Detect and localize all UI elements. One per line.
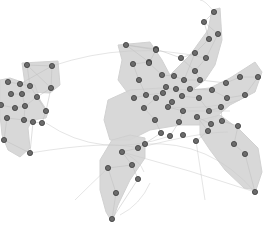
graph-node[interactable]: [21, 117, 26, 122]
graph-node[interactable]: [180, 132, 185, 137]
graph-node[interactable]: [136, 77, 141, 82]
graph-node[interactable]: [211, 9, 216, 14]
graph-node[interactable]: [27, 83, 32, 88]
graph-node[interactable]: [218, 104, 223, 109]
graph-node[interactable]: [8, 91, 13, 96]
graph-node[interactable]: [203, 55, 208, 60]
graph-node[interactable]: [209, 87, 214, 92]
graph-node[interactable]: [180, 108, 185, 113]
graph-node[interactable]: [201, 19, 206, 24]
graph-node[interactable]: [242, 151, 247, 156]
graph-node[interactable]: [113, 190, 118, 195]
graph-node[interactable]: [119, 149, 124, 154]
graph-node[interactable]: [152, 117, 157, 122]
graph-node[interactable]: [208, 121, 213, 126]
graph-node[interactable]: [49, 63, 54, 68]
graph-node[interactable]: [160, 90, 165, 95]
graph-node[interactable]: [17, 81, 22, 86]
graph-node[interactable]: [223, 80, 228, 85]
graph-node[interactable]: [171, 73, 176, 78]
graph-node[interactable]: [231, 141, 236, 146]
graph-node[interactable]: [135, 145, 140, 150]
graph-node[interactable]: [123, 42, 128, 47]
graph-node[interactable]: [173, 86, 178, 91]
graph-node[interactable]: [48, 85, 53, 90]
graph-node[interactable]: [179, 93, 184, 98]
graph-node[interactable]: [4, 115, 9, 120]
graph-node[interactable]: [242, 92, 247, 97]
graph-svg: [0, 0, 267, 230]
graph-node[interactable]: [206, 108, 211, 113]
graph-node[interactable]: [194, 114, 199, 119]
graph-node[interactable]: [255, 74, 260, 79]
graph-node[interactable]: [215, 31, 220, 36]
graph-node[interactable]: [131, 95, 136, 100]
graph-node[interactable]: [158, 130, 163, 135]
graph-node[interactable]: [24, 62, 29, 67]
graph-node[interactable]: [146, 60, 151, 65]
graph-node[interactable]: [143, 92, 148, 97]
graph-node[interactable]: [176, 119, 181, 124]
graph-node[interactable]: [19, 91, 24, 96]
graph-node[interactable]: [178, 55, 183, 60]
graph-node[interactable]: [1, 137, 6, 142]
graph-node[interactable]: [153, 47, 158, 52]
graph-node[interactable]: [135, 176, 140, 181]
graph-node[interactable]: [5, 79, 10, 84]
graph-node[interactable]: [153, 95, 158, 100]
graph-node[interactable]: [0, 102, 4, 107]
graph-node[interactable]: [12, 105, 17, 110]
graph-node[interactable]: [181, 77, 186, 82]
graph-node[interactable]: [39, 120, 44, 125]
graph-node[interactable]: [187, 86, 192, 91]
graph-node[interactable]: [159, 72, 164, 77]
graph-node[interactable]: [197, 77, 202, 82]
graph-node[interactable]: [43, 108, 48, 113]
graph-node[interactable]: [142, 141, 147, 146]
graph-node[interactable]: [130, 61, 135, 66]
graph-node[interactable]: [30, 119, 35, 124]
graph-node[interactable]: [167, 133, 172, 138]
graph-node[interactable]: [237, 74, 242, 79]
graph-node[interactable]: [205, 128, 210, 133]
graph-node[interactable]: [105, 165, 110, 170]
graph-node[interactable]: [252, 189, 257, 194]
graph-long-edge: [196, 141, 205, 200]
graph-node[interactable]: [109, 216, 114, 221]
graph-node[interactable]: [192, 50, 197, 55]
graph-node[interactable]: [193, 138, 198, 143]
graph-node[interactable]: [22, 103, 27, 108]
graph-node[interactable]: [235, 123, 240, 128]
network-graph-canvas: [0, 0, 267, 230]
graph-node[interactable]: [169, 99, 174, 104]
graph-node[interactable]: [129, 162, 134, 167]
graph-node[interactable]: [163, 84, 168, 89]
graph-node[interactable]: [165, 104, 170, 109]
graph-node[interactable]: [27, 150, 32, 155]
graph-node[interactable]: [141, 105, 146, 110]
graph-edge: [30, 122, 33, 153]
graph-node[interactable]: [192, 68, 197, 73]
graph-node[interactable]: [196, 95, 201, 100]
graph-node[interactable]: [206, 36, 211, 41]
graph-node[interactable]: [34, 94, 39, 99]
graph-node[interactable]: [219, 118, 224, 123]
graph-node[interactable]: [224, 95, 229, 100]
